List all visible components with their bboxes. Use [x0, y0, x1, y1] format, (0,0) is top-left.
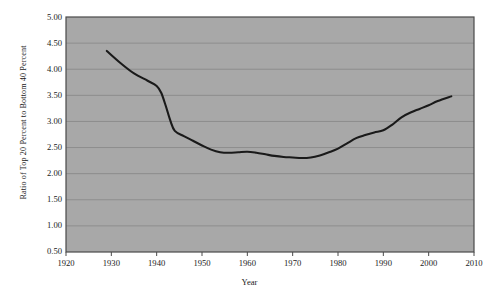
- x-tick-label: 1950: [182, 258, 222, 268]
- x-tick-label: 1930: [91, 258, 131, 268]
- plot-background: [66, 17, 474, 252]
- x-tick-label: 1940: [137, 258, 177, 268]
- x-tick-label: 1920: [46, 258, 86, 268]
- x-tick-label: 1970: [273, 258, 313, 268]
- x-tick-label: 2010: [454, 258, 494, 268]
- x-axis-tickmarks: [66, 252, 474, 256]
- plot-svg: [0, 0, 499, 301]
- x-tick-label: 1990: [363, 258, 403, 268]
- chart-container: 5.00 4.50 4.00 3.50 3.00 2.50 2.00 1.50 …: [0, 0, 499, 301]
- x-tick-label: 1960: [227, 258, 267, 268]
- x-axis-title: Year: [0, 277, 499, 287]
- x-tick-label: 1980: [318, 258, 358, 268]
- x-tick-label: 2000: [409, 258, 449, 268]
